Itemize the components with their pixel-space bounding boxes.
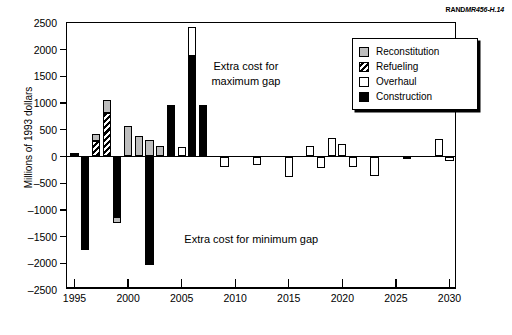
x-tick-label: 2030 <box>438 292 461 304</box>
bar-2001 <box>135 23 143 290</box>
chart-legend: ReconstitutionRefuelingOverhaulConstruct… <box>352 38 478 110</box>
bar-2018 <box>317 23 325 290</box>
y-axis-label: Millions of 1993 dollars <box>23 48 34 228</box>
bar-segment-overhaul <box>403 157 411 159</box>
bar-segment-reconstitution <box>145 140 153 156</box>
bar-2005 <box>178 23 186 290</box>
legend-label: Construction <box>376 91 432 102</box>
y-tick <box>60 209 67 210</box>
bar-1995 <box>70 23 78 290</box>
bar-segment-construction <box>199 105 207 156</box>
y-tick <box>60 263 67 264</box>
y-tick-label: 0 <box>51 151 57 163</box>
x-tick-label: 2020 <box>331 292 354 304</box>
bar-segment-overhaul <box>370 157 378 177</box>
x-tick <box>395 279 396 287</box>
legend-item-overhaul[interactable]: Overhaul <box>359 74 471 89</box>
bar-1997 <box>92 23 100 290</box>
bar-segment-reconstitution <box>103 100 111 113</box>
bar-segment-refueling <box>92 141 100 156</box>
y-tick-label: 1000 <box>34 97 57 109</box>
y-tick-label: 500 <box>39 124 57 136</box>
bar-segment-overhaul <box>328 138 336 157</box>
y-tick-label: –2500 <box>28 284 57 296</box>
legend-swatch-refueling-icon <box>359 62 369 72</box>
legend-swatch-construction-icon <box>359 92 369 102</box>
annotation-min-gap: Extra cost for minimum gap <box>184 232 318 247</box>
credit-italic: MR456-H.14 <box>465 6 504 13</box>
bar-segment-construction <box>167 105 175 157</box>
credit-bold: RAND <box>445 6 465 13</box>
x-tick-label: 2025 <box>384 292 407 304</box>
legend-label: Reconstitution <box>376 46 439 57</box>
legend-item-refueling[interactable]: Refueling <box>359 59 471 74</box>
x-tick-label: 2005 <box>170 292 193 304</box>
y-tick <box>60 76 67 77</box>
bar-segment-construction <box>188 56 196 157</box>
bar-segment-overhaul <box>338 144 346 157</box>
bar-segment-overhaul <box>285 157 293 177</box>
legend-item-reconstitution[interactable]: Reconstitution <box>359 44 471 59</box>
y-tick-label: –500 <box>34 177 57 189</box>
bar-segment-overhaul <box>306 146 314 156</box>
annotation-max-gap: Extra cost formaximum gap <box>211 59 280 89</box>
bar-2002 <box>145 23 153 290</box>
bar-segment-construction <box>113 157 121 217</box>
bar-segment-reconstitution <box>113 217 121 223</box>
bar-segment-overhaul <box>349 157 357 168</box>
bar-segment-construction <box>70 153 78 156</box>
y-tick <box>60 236 67 237</box>
x-tick <box>235 279 236 287</box>
legend-swatch-reconstitution-icon <box>359 47 369 57</box>
rand-credit-line: RANDMR456-H.14 <box>445 6 504 13</box>
bar-1996 <box>81 23 89 290</box>
legend-swatch-overhaul-icon <box>359 77 369 87</box>
bar-segment-overhaul <box>220 157 228 168</box>
bar-1999 <box>113 23 121 290</box>
bar-segment-construction <box>81 157 89 251</box>
y-tick <box>60 129 67 130</box>
bar-2004 <box>167 23 175 290</box>
y-tick <box>60 102 67 103</box>
figure-root: RANDMR456-H.14 Millions of 1993 dollars … <box>0 0 512 335</box>
bar-segment-overhaul <box>253 157 261 166</box>
annotation-line: Extra cost for minimum gap <box>184 232 318 247</box>
bar-segment-overhaul <box>317 157 325 168</box>
annotation-line: maximum gap <box>211 74 280 89</box>
y-tick-label: –2000 <box>28 257 57 269</box>
bar-segment-reconstitution <box>124 126 132 157</box>
bar-2007 <box>199 23 207 290</box>
bar-segment-overhaul <box>178 147 186 157</box>
y-tick <box>60 156 67 157</box>
bar-segment-overhaul <box>188 27 196 55</box>
y-tick <box>60 49 67 50</box>
bar-segment-overhaul <box>435 139 443 157</box>
x-tick-label: 2015 <box>277 292 300 304</box>
bar-2015 <box>285 23 293 290</box>
bar-2020 <box>338 23 346 290</box>
y-tick-label: –1000 <box>28 204 57 216</box>
bar-2003 <box>156 23 164 290</box>
bar-2006 <box>188 23 196 290</box>
bar-segment-reconstitution <box>156 146 164 157</box>
bar-segment-construction <box>145 157 153 265</box>
legend-label: Overhaul <box>376 76 417 87</box>
bar-2019 <box>328 23 336 290</box>
y-tick-label: –1500 <box>28 231 57 243</box>
y-tick-label: 2500 <box>34 17 57 29</box>
legend-item-construction[interactable]: Construction <box>359 89 471 104</box>
legend-label: Refueling <box>376 61 418 72</box>
annotation-line: Extra cost for <box>211 59 280 74</box>
y-tick <box>60 183 67 184</box>
x-tick-label: 1995 <box>63 292 86 304</box>
bar-segment-refueling <box>103 113 111 156</box>
y-tick-label: 1500 <box>34 70 57 82</box>
bar-segment-overhaul <box>445 157 453 161</box>
bar-segment-reconstitution <box>135 136 143 156</box>
x-tick-label: 2000 <box>116 292 139 304</box>
y-tick-label: 2000 <box>34 44 57 56</box>
x-tick-label: 2010 <box>224 292 247 304</box>
bar-2000 <box>124 23 132 290</box>
bar-1998 <box>103 23 111 290</box>
bar-2017 <box>306 23 314 290</box>
